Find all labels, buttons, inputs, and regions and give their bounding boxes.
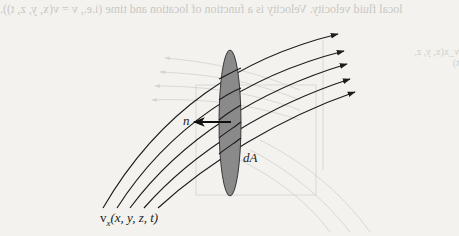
surface-label: dA xyxy=(243,150,257,166)
bleed-through-figure xyxy=(152,40,370,232)
streamline-4 xyxy=(144,79,350,208)
velocity-args: (x, y, z, t) xyxy=(111,210,159,225)
velocity-label: vx(x, y, z, t) xyxy=(100,210,158,228)
normal-label: n xyxy=(183,113,190,129)
flow-diagram xyxy=(0,0,459,236)
